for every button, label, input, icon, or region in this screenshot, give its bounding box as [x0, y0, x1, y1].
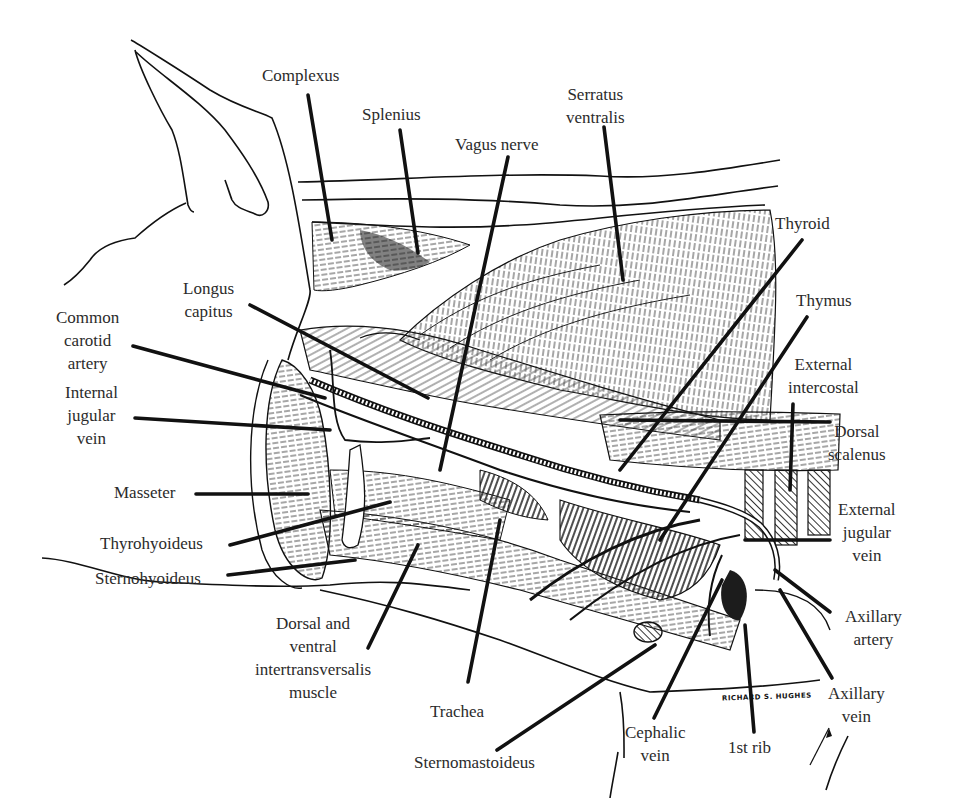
label-thyrohyoideus: Thyrohyoideus — [100, 532, 203, 555]
label-common-carotid-artery: Common carotid artery — [56, 306, 119, 375]
label-first-rib: 1st rib — [728, 736, 771, 759]
label-serratus-ventralis: Serratus ventralis — [566, 83, 625, 129]
label-thymus: Thymus — [796, 289, 852, 312]
label-internal-jugular-vein: Internal jugular vein — [65, 381, 118, 450]
label-dorsal-scalenus: Dorsal scalenus — [828, 420, 886, 466]
label-masseter: Masseter — [114, 481, 175, 504]
label-thyroid: Thyroid — [775, 212, 830, 235]
label-external-intercostal: External intercostal — [788, 353, 859, 399]
intercostal-columns — [745, 470, 830, 545]
label-sternohyoideus: Sternohyoideus — [95, 567, 201, 590]
label-dorsal-ventral-intertransversalis: Dorsal and ventral intertransversalis mu… — [255, 612, 371, 704]
label-sternomastoideus: Sternomastoideus — [414, 751, 535, 774]
label-vagus-nerve: Vagus nerve — [455, 133, 539, 156]
label-splenius: Splenius — [362, 103, 421, 126]
label-axillary-vein: Axillary vein — [828, 682, 885, 728]
label-external-jugular-vein: External jugular vein — [838, 498, 896, 567]
arrow-indicator — [810, 728, 832, 765]
masseter-muscle — [251, 360, 331, 588]
first-rib-leader-line — [745, 625, 754, 732]
label-complexus: Complexus — [262, 64, 339, 87]
label-trachea: Trachea — [430, 700, 484, 723]
axillary-vein-leader-line — [780, 590, 832, 678]
label-cephalic-vein: Cephalic vein — [625, 721, 685, 767]
complexus-leader-line — [308, 95, 332, 240]
dorsal-scalenus-leader-line — [620, 420, 830, 422]
label-axillary-artery: Axillary artery — [845, 605, 902, 651]
dorsal-neck-muscles — [312, 222, 470, 291]
label-longus-capitus: Longus capitus — [183, 277, 234, 323]
axillary-artery-leader-line — [775, 570, 830, 612]
